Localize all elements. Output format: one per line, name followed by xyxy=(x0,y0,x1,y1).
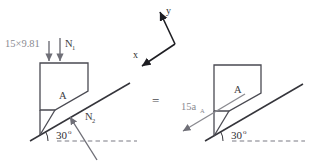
block-a-label-left: A xyxy=(59,90,67,101)
left-free-body-diagram: 15×9.81 N 1 N 2 A 30 o xyxy=(5,38,137,160)
equals-sign: = xyxy=(152,93,159,108)
weight-force-label: 15×9.81 xyxy=(5,38,40,49)
normal-force-n1-subscript: 1 xyxy=(72,44,75,51)
incline-angle-value-right: 30 xyxy=(231,129,243,141)
block-a-label-right: A xyxy=(234,84,242,95)
physics-diagram: 15×9.81 N 1 N 2 A 30 o y x = xyxy=(0,0,311,165)
x-axis-label: x xyxy=(133,49,138,60)
incline-angle-value-left: 30 xyxy=(56,129,68,141)
x-axis-arrow xyxy=(142,44,175,66)
y-axis-label: y xyxy=(166,5,171,16)
angle-arc-right xyxy=(221,132,224,142)
incline-angle-unit-right: o xyxy=(243,128,247,136)
incline-angle-unit-left: o xyxy=(68,128,72,136)
y-axis-arrow xyxy=(160,12,175,44)
inertia-vector-subscript: A xyxy=(200,107,205,114)
right-kinetic-diagram: A 15a A 30 o xyxy=(181,65,305,141)
diagram-canvas: 15×9.81 N 1 N 2 A 30 o y x = xyxy=(0,0,311,165)
block-a-left xyxy=(40,63,88,110)
inertia-vector-label: 15a xyxy=(181,101,197,112)
angle-arc-left xyxy=(46,132,49,142)
coordinate-axes: y x xyxy=(133,5,175,66)
normal-force-n2-subscript: 2 xyxy=(92,117,95,124)
